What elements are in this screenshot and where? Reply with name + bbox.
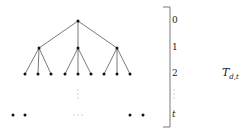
level-label-t: t [172, 109, 176, 119]
level-bracket [163, 7, 170, 127]
ellipsis-dots [74, 90, 175, 116]
tree-diagram [0, 0, 249, 138]
level-label-0: 0 [172, 15, 178, 25]
level-label-2: 2 [172, 68, 178, 78]
diagram-title: Td,t [222, 66, 239, 81]
title-subscript: d,t [229, 73, 239, 81]
level-label-1: 1 [172, 42, 178, 52]
